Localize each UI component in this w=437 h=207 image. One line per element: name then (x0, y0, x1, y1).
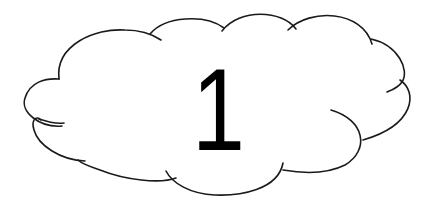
cloud-number-label: 1 (39, 0, 397, 207)
